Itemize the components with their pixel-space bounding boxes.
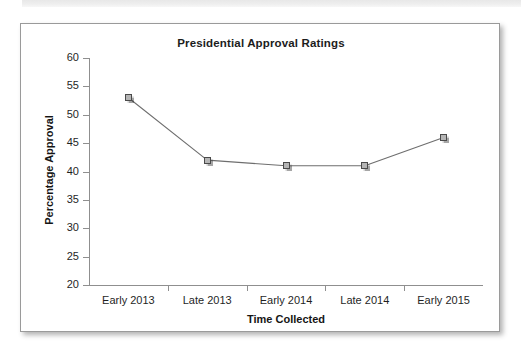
- data-point-marker: [125, 94, 132, 101]
- data-point-marker: [361, 162, 368, 169]
- chart-figure: Presidential Approval Ratings 6055504540…: [20, 23, 500, 332]
- data-point-marker: [283, 162, 290, 169]
- series-line: [21, 24, 501, 333]
- plot-area: 605550454035302520 Early 2013Late 2013Ea…: [21, 24, 501, 333]
- data-point-marker: [440, 134, 447, 141]
- page-scan-band: [22, 0, 521, 7]
- y-axis-title: Percentage Approval: [43, 80, 55, 260]
- data-point-marker: [204, 157, 211, 164]
- x-axis-title: Time Collected: [89, 313, 483, 325]
